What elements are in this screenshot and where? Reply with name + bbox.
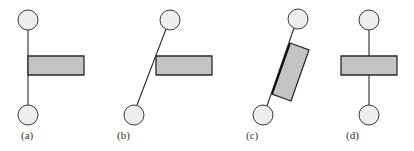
plate	[341, 56, 397, 75]
pendulum-plate-diagram: (a) (b) (c) (d)	[0, 0, 414, 151]
top-ball	[18, 10, 38, 30]
panel-label-b: (b)	[117, 129, 130, 142]
plate	[28, 56, 84, 75]
panel-label-c: (c)	[246, 129, 259, 142]
panel-a: (a)	[18, 10, 84, 142]
panel-b: (b)	[117, 10, 212, 142]
bottom-ball	[18, 105, 38, 125]
panel-label-a: (a)	[21, 129, 34, 142]
panel-label-d: (d)	[346, 129, 359, 142]
panel-d: (d)	[341, 10, 397, 142]
top-ball	[160, 10, 180, 30]
bottom-ball	[359, 105, 379, 125]
panel-c: (c)	[246, 9, 309, 142]
top-ball	[359, 10, 379, 30]
plate	[272, 43, 309, 101]
top-ball	[288, 9, 308, 29]
bottom-ball	[124, 105, 144, 125]
bottom-ball	[253, 105, 273, 125]
plate	[156, 56, 212, 75]
